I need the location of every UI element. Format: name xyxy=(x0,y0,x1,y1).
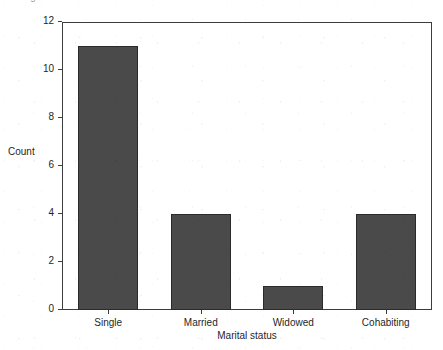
bar xyxy=(356,214,416,310)
bar-chart: 024681012 Count SingleMarriedWidowedCoha… xyxy=(0,0,443,350)
y-axis-tick-label: 10 xyxy=(43,63,54,74)
bar xyxy=(78,46,138,310)
y-axis-tick-label: 12 xyxy=(43,15,54,26)
y-axis-tick-label: 0 xyxy=(48,303,54,314)
x-axis-tick-mark xyxy=(386,310,387,314)
x-axis-tick-mark xyxy=(108,310,109,314)
y-axis-tick-label: 4 xyxy=(48,207,54,218)
y-axis-tick-label: 2 xyxy=(48,255,54,266)
y-axis-title: Count xyxy=(8,146,35,157)
x-axis-tick-mark xyxy=(201,310,202,314)
x-axis-tick-mark xyxy=(293,310,294,314)
x-axis-title: Marital status xyxy=(62,330,432,342)
x-axis-tick-label: Cohabiting xyxy=(362,317,410,329)
bar-series xyxy=(62,22,432,310)
bar xyxy=(171,214,231,310)
bar xyxy=(263,286,323,310)
y-axis-tick-label: 6 xyxy=(48,159,54,170)
x-axis-tick-label: Widowed xyxy=(273,317,314,329)
y-axis: 024681012 xyxy=(0,0,62,350)
y-axis-tick-label: 8 xyxy=(48,111,54,122)
x-axis-tick-label: Single xyxy=(94,317,122,329)
x-axis-tick-label: Married xyxy=(184,317,218,329)
